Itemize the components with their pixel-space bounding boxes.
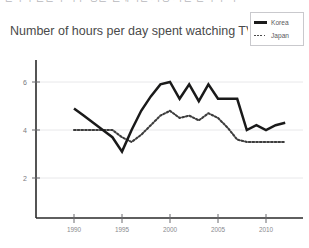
y-tick-label: 4 <box>23 127 27 134</box>
x-tick-label: 2000 <box>163 226 178 233</box>
figure-container: 한국과 일본의 하루 평균 텔레비전 시청 시간 변화 추이 Number of… <box>0 0 309 248</box>
x-tick-label: 2010 <box>259 226 274 233</box>
x-tick-label: 1990 <box>67 226 82 233</box>
plot-area: 642 19901995200020052010 <box>0 0 309 248</box>
x-axis: 19901995200020052010 <box>36 214 303 233</box>
y-tick-label: 2 <box>23 175 27 182</box>
x-tick-label: 1995 <box>115 226 130 233</box>
y-tick-label: 6 <box>23 79 27 86</box>
y-axis: 642 <box>23 60 40 218</box>
x-tick-group: 19901995200020052010 <box>67 214 274 233</box>
y-tick-group: 642 <box>23 79 40 182</box>
x-tick-label: 2005 <box>211 226 226 233</box>
